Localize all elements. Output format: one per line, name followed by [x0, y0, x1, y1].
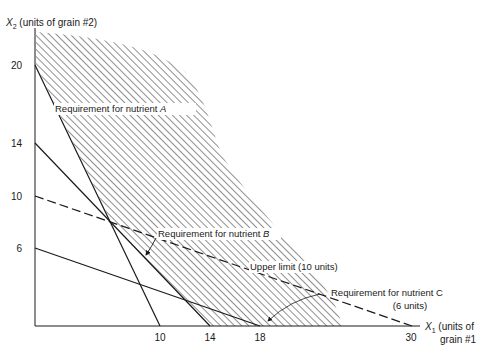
x-tick-30: 30 [405, 332, 417, 343]
diagram: X2 (units of grain #2) 20 14 10 6 10 14 … [0, 0, 479, 360]
x-tick-14: 14 [204, 332, 216, 343]
nutrient-a-label: Requirement for nutrient A [55, 103, 166, 114]
x-axis-title-line2: grain #1 [440, 334, 477, 345]
y-tick-6: 6 [16, 243, 22, 254]
x-axis-title: X1 (units of [424, 321, 474, 334]
upper-limit-label: Upper limit (10 units) [250, 261, 338, 272]
nutrient-b-label: Requirement for nutrient B [158, 228, 270, 239]
feasible-region [36, 32, 342, 326]
nutrient-c-units-label: (6 units) [393, 300, 427, 311]
y-tick-14: 14 [11, 138, 23, 149]
y-axis-title: X2 (units of grain #2) [5, 17, 97, 30]
y-tick-20: 20 [11, 60, 23, 71]
x-tick-18: 18 [254, 332, 266, 343]
y-tick-10: 10 [11, 191, 23, 202]
x-tick-10: 10 [154, 332, 166, 343]
nutrient-c-label: Requirement for nutrient C [331, 287, 443, 298]
